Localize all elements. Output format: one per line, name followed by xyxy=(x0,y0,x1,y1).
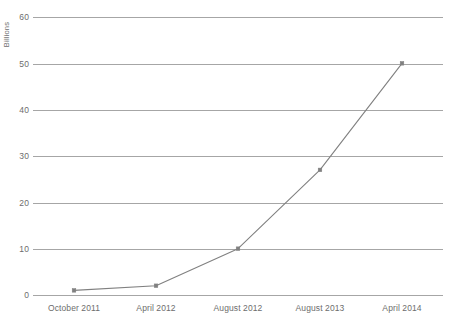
x-tick-label-april-2012: April 2012 xyxy=(115,299,197,319)
x-tick-label-april-2014: April 2014 xyxy=(361,299,443,319)
y-tick-label-30: 30 xyxy=(3,152,29,161)
gridline-60 xyxy=(33,17,443,18)
x-axis-tick-labels: October 2011 April 2012 August 2012 Augu… xyxy=(33,299,443,319)
x-tick-label-august-2013: August 2013 xyxy=(279,299,361,319)
y-tick-label-50: 50 xyxy=(3,60,29,69)
gridline-40 xyxy=(33,110,443,111)
gridline-50 xyxy=(33,64,443,65)
y-tick-label-40: 40 xyxy=(3,106,29,115)
gridline-30 xyxy=(33,156,443,157)
gridline-20 xyxy=(33,203,443,204)
x-tick-label-october-2011: October 2011 xyxy=(33,299,115,319)
plot-area xyxy=(33,17,443,295)
line-chart: Billions 60 50 40 30 20 10 0 October 201… xyxy=(0,0,456,328)
y-axis-tick-labels: 60 50 40 30 20 10 0 xyxy=(0,0,29,328)
y-tick-label-0: 0 xyxy=(3,291,29,300)
x-tick-label-august-2012: August 2012 xyxy=(197,299,279,319)
y-tick-label-10: 10 xyxy=(3,245,29,254)
x-axis-line xyxy=(33,295,443,296)
y-tick-label-20: 20 xyxy=(3,199,29,208)
gridline-10 xyxy=(33,249,443,250)
y-tick-label-60: 60 xyxy=(3,13,29,22)
